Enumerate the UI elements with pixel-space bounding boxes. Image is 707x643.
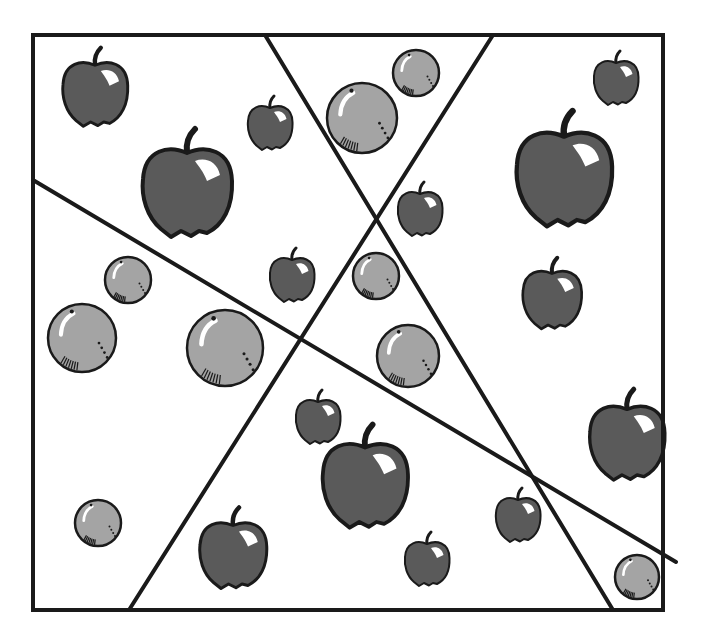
apple-icon (270, 248, 315, 302)
apple-icon (248, 96, 293, 150)
apples-oranges-diagram (0, 0, 707, 643)
orange-icon (187, 310, 263, 386)
orange-icon (105, 257, 151, 303)
apple-icon (296, 390, 341, 444)
apple-icon (398, 182, 443, 236)
apple-icon (200, 508, 267, 589)
apple-icon (143, 129, 232, 237)
orange-icon (353, 253, 399, 299)
apple-icon (405, 532, 450, 586)
apple-icon (594, 51, 639, 105)
orange-icon (48, 304, 116, 372)
apple-icon (323, 425, 408, 528)
apple-icon (590, 389, 665, 480)
apple-icon (517, 111, 613, 226)
fruit-layer (48, 48, 665, 599)
apple-icon (496, 488, 541, 542)
orange-icon (377, 325, 439, 387)
apple-icon (63, 48, 128, 127)
orange-icon (75, 500, 121, 546)
orange-icon (393, 50, 439, 96)
orange-icon (327, 83, 397, 153)
orange-icon (615, 555, 659, 599)
apple-icon (523, 258, 582, 329)
